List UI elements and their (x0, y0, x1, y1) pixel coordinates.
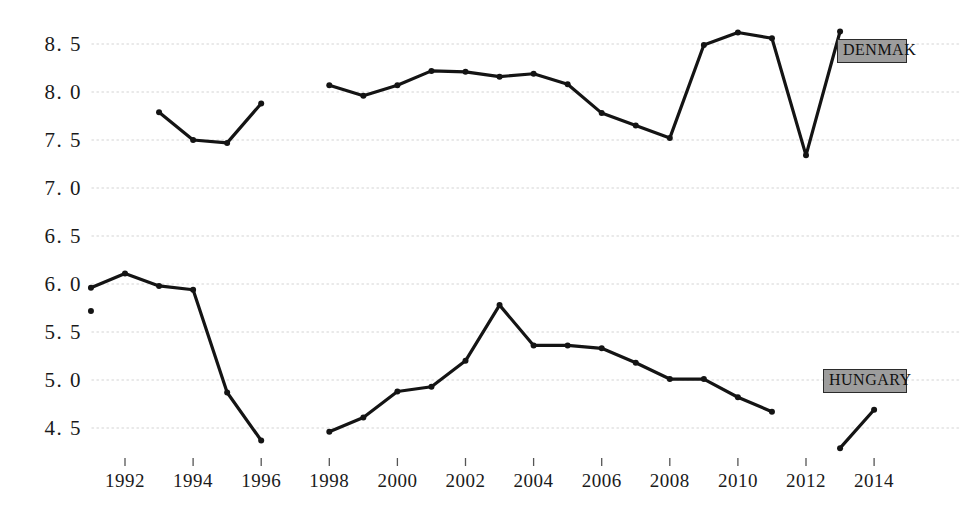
x-tick-label: 2004 (499, 470, 569, 492)
x-tick-label: 2010 (703, 470, 773, 492)
data-point (394, 82, 400, 88)
data-point (769, 35, 775, 41)
data-point (428, 68, 434, 74)
data-point (156, 109, 162, 115)
series-line (91, 273, 261, 440)
data-point (633, 123, 639, 129)
data-point (190, 287, 196, 293)
data-point (122, 270, 128, 276)
data-point (735, 29, 741, 35)
y-tick-label: 8. 5 (22, 32, 82, 57)
data-point (837, 445, 843, 451)
data-point (769, 409, 775, 415)
data-point (156, 283, 162, 289)
x-tick-marks (125, 458, 874, 466)
x-tick-label: 1992 (90, 470, 160, 492)
data-point (428, 384, 434, 390)
data-point (463, 358, 469, 364)
hungary-label: HUNGARY (823, 369, 907, 393)
y-tick-label: 4. 5 (22, 416, 82, 441)
data-point (837, 29, 843, 35)
data-point (88, 308, 94, 314)
data-point (871, 407, 877, 413)
data-point (360, 93, 366, 99)
x-tick-label: 2008 (635, 470, 705, 492)
series-line (840, 410, 874, 448)
data-point (565, 342, 571, 348)
series-hungary (88, 270, 877, 451)
y-tick-label: 6. 0 (22, 272, 82, 297)
data-point (531, 71, 537, 77)
data-point (224, 140, 230, 146)
y-tick-label: 7. 0 (22, 176, 82, 201)
data-point (667, 135, 673, 141)
data-point (360, 414, 366, 420)
data-point (599, 345, 605, 351)
x-tick-label: 2012 (771, 470, 841, 492)
data-point (258, 101, 264, 107)
data-point (599, 110, 605, 116)
data-point (701, 376, 707, 382)
y-tick-label: 5. 0 (22, 368, 82, 393)
x-tick-label: 2000 (362, 470, 432, 492)
x-tick-label: 1998 (294, 470, 364, 492)
data-point (667, 376, 673, 382)
data-point (497, 74, 503, 80)
y-tick-label: 8. 0 (22, 80, 82, 105)
data-point (701, 42, 707, 48)
denmak-label: DENMAK (837, 39, 907, 63)
data-point (224, 389, 230, 395)
x-tick-label: 1994 (158, 470, 228, 492)
data-point (531, 342, 537, 348)
series-line (329, 305, 772, 432)
x-tick-label: 2006 (567, 470, 637, 492)
y-tick-label: 7. 5 (22, 128, 82, 153)
x-tick-label: 2014 (839, 470, 909, 492)
data-point (735, 394, 741, 400)
series-line (159, 104, 261, 143)
plot-area (0, 0, 970, 524)
data-point (258, 437, 264, 443)
line-chart: 4. 55. 05. 56. 06. 57. 07. 58. 08. 5 199… (0, 0, 970, 524)
y-tick-label: 6. 5 (22, 224, 82, 249)
data-point (565, 81, 571, 87)
series-line (329, 32, 840, 156)
data-point (803, 152, 809, 158)
data-point (190, 137, 196, 143)
x-tick-label: 1996 (226, 470, 296, 492)
series-denmak (156, 29, 843, 159)
x-tick-label: 2002 (431, 470, 501, 492)
data-point (463, 69, 469, 75)
y-tick-label: 5. 5 (22, 320, 82, 345)
data-point (326, 429, 332, 435)
data-point (88, 285, 94, 291)
data-point (497, 302, 503, 308)
data-point (326, 82, 332, 88)
data-point (633, 360, 639, 366)
data-point (394, 389, 400, 395)
